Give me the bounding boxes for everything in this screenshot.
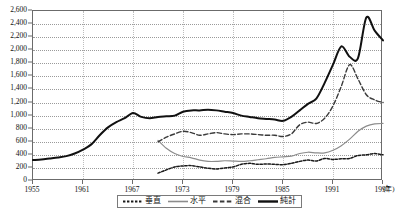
legend-label: 純計 bbox=[280, 197, 296, 205]
chart-legend: 垂直水平混合純計 bbox=[117, 195, 302, 208]
legend-swatch-純計 bbox=[258, 198, 278, 205]
y-tick-label: 1,800 bbox=[10, 59, 27, 67]
y-tick-label: 1,600 bbox=[10, 72, 27, 80]
legend-label: 垂直 bbox=[145, 197, 161, 205]
line-chart: 02004006008001,0001,2001,4001,6001,8002,… bbox=[0, 0, 407, 214]
y-tick-label: 1,000 bbox=[10, 111, 27, 119]
x-tick-label: 1973 bbox=[175, 186, 190, 194]
y-tick-label: 800 bbox=[16, 124, 27, 132]
legend-swatch-水平 bbox=[168, 198, 188, 205]
legend-item-純計[interactable]: 純計 bbox=[258, 197, 296, 205]
x-tick-label: 1955 bbox=[25, 186, 40, 194]
x-tick-mark bbox=[32, 180, 33, 184]
y-tick-label: 0 bbox=[23, 176, 27, 184]
legend-swatch-垂直 bbox=[123, 198, 143, 205]
x-axis: 19551961196719731979198519911997 bbox=[32, 180, 382, 196]
series-line-水平 bbox=[158, 123, 383, 161]
y-tick-label: 1,400 bbox=[10, 85, 27, 93]
x-tick-label: 1991 bbox=[325, 186, 340, 194]
x-tick-mark bbox=[132, 180, 133, 184]
y-tick-label: 600 bbox=[16, 137, 27, 145]
series-layer bbox=[33, 11, 383, 181]
series-line-垂直 bbox=[158, 154, 383, 174]
x-tick-label: 1985 bbox=[275, 186, 290, 194]
series-line-純計 bbox=[33, 17, 383, 160]
y-tick-label: 400 bbox=[16, 150, 27, 158]
x-tick-label: 1979 bbox=[225, 186, 240, 194]
legend-item-水平[interactable]: 水平 bbox=[168, 197, 206, 205]
x-tick-mark bbox=[332, 180, 333, 184]
y-tick-label: 2,200 bbox=[10, 32, 27, 40]
x-tick-mark bbox=[82, 180, 83, 184]
x-tick-mark bbox=[382, 180, 383, 184]
series-line-混合 bbox=[158, 65, 383, 142]
x-tick-label: 1967 bbox=[125, 186, 140, 194]
legend-label: 水平 bbox=[190, 197, 206, 205]
y-tick-label: 2,600 bbox=[10, 6, 27, 14]
y-axis: 02004006008001,0001,2001,4001,6001,8002,… bbox=[0, 10, 30, 180]
y-tick-label: 2,000 bbox=[10, 45, 27, 53]
x-tick-mark bbox=[182, 180, 183, 184]
x-axis-unit-label: (年) bbox=[383, 186, 395, 193]
plot-area bbox=[32, 10, 382, 180]
y-tick-label: 200 bbox=[16, 163, 27, 171]
x-tick-mark bbox=[282, 180, 283, 184]
x-tick-mark bbox=[232, 180, 233, 184]
legend-swatch-混合 bbox=[213, 198, 233, 205]
x-tick-label: 1961 bbox=[75, 186, 90, 194]
legend-item-混合[interactable]: 混合 bbox=[213, 197, 251, 205]
y-tick-label: 2,400 bbox=[10, 19, 27, 27]
y-tick-label: 1,200 bbox=[10, 98, 27, 106]
legend-item-垂直[interactable]: 垂直 bbox=[123, 197, 161, 205]
legend-label: 混合 bbox=[235, 197, 251, 205]
